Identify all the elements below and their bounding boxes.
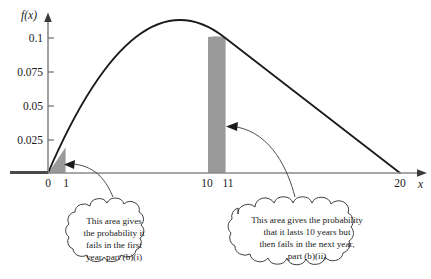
right-cloud-line-4: part (b)(ii) [288, 251, 327, 261]
chart-canvas: 0.1 0.075 0.05 0.025 0 1 10 11 20 f(x) x… [0, 0, 431, 279]
y-tick-label-0.025: 0.025 [17, 134, 43, 146]
left-cloud-line-2: the probability it [83, 228, 145, 238]
y-tick-label-0.1: 0.1 [29, 32, 44, 44]
left-cloud-callout: This area gives the probability it fails… [66, 198, 145, 262]
probability-density-figure: 0.1 0.075 0.05 0.025 0 1 10 11 20 f(x) x… [0, 0, 431, 279]
left-cloud-line-3: fails in the first [86, 240, 142, 250]
right-leader-arrowhead [226, 122, 238, 131]
left-cloud-line-1: This area gives [86, 216, 142, 226]
x-tick-label-0: 0 [45, 177, 51, 189]
x-axis-title: x [417, 178, 424, 190]
y-axis-ticks [48, 38, 54, 140]
x-axis-arrow [417, 169, 427, 177]
right-cloud-line-3: then fails in the next year, [259, 239, 354, 249]
y-axis-title: f(x) [21, 9, 37, 22]
left-leader-arrowhead [64, 160, 75, 169]
y-tick-label-0.075: 0.075 [17, 66, 43, 78]
shaded-area-tenth-year [208, 36, 226, 173]
shaded-regions [48, 36, 226, 173]
y-tick-label-0.05: 0.05 [23, 100, 43, 112]
right-cloud-line-2: that it lasts 10 years but [263, 227, 350, 237]
x-tick-label-1: 1 [63, 177, 69, 189]
right-leader-line [237, 127, 295, 197]
x-tick-label-11: 11 [222, 177, 233, 189]
left-cloud-line-4: year, part (b)(i) [86, 252, 142, 262]
y-axis-arrow [44, 13, 52, 23]
annotation-leaders [64, 122, 295, 197]
x-tick-label-10: 10 [201, 177, 213, 189]
right-cloud-line-1: This area gives the probability [251, 215, 363, 225]
right-cloud-callout: This area gives the probability that it … [228, 197, 363, 265]
x-tick-label-20: 20 [394, 177, 406, 189]
left-leader-line [74, 164, 113, 197]
